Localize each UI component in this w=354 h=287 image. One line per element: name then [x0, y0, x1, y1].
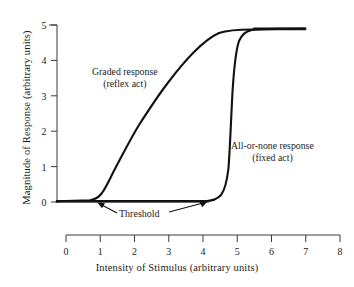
x-tick-8: 8 — [338, 246, 343, 257]
annotation-aon-line2: (fixed act) — [231, 152, 314, 164]
x-axis-label: Intensity of Stimulus (arbitrary units) — [0, 262, 354, 273]
curve-all-or-none-response — [57, 29, 305, 202]
x-tick-6: 6 — [269, 246, 274, 257]
x-tick-5: 5 — [235, 246, 240, 257]
x-tick-0: 0 — [64, 246, 69, 257]
y-axis — [49, 25, 57, 203]
annotation-aon-line1: All-or-none response — [231, 140, 314, 152]
y-tick-2: 2 — [42, 126, 47, 137]
curve-graded-response — [57, 30, 252, 202]
y-axis-label: Magnitude of Response (arbitrary units) — [21, 8, 32, 228]
annotation-graded-line1: Graded response — [92, 66, 158, 78]
x-axis-ruler — [66, 235, 340, 242]
x-tick-2: 2 — [132, 246, 137, 257]
y-tick-0: 0 — [42, 197, 47, 208]
x-tick-labels: 0 1 2 3 4 5 6 7 8 — [64, 246, 343, 257]
annotation-all-or-none-response: All-or-none response (fixed act) — [231, 140, 314, 163]
annotation-graded-line2: (reflex act) — [92, 78, 158, 90]
y-tick-labels: 5 4 3 2 1 0 — [42, 20, 47, 208]
y-tick-4: 4 — [42, 55, 47, 66]
annotation-threshold: Threshold — [119, 208, 160, 219]
y-tick-3: 3 — [42, 91, 47, 102]
x-tick-1: 1 — [98, 246, 103, 257]
figure-container: Magnitude of Response (arbitrary units) … — [0, 0, 354, 287]
annotation-graded-response: Graded response (reflex act) — [92, 66, 158, 89]
y-tick-5: 5 — [42, 20, 47, 31]
y-axis-ticks — [51, 25, 57, 202]
x-tick-3: 3 — [166, 246, 171, 257]
x-tick-7: 7 — [303, 246, 308, 257]
x-tick-4: 4 — [201, 246, 206, 257]
y-tick-1: 1 — [42, 162, 47, 173]
